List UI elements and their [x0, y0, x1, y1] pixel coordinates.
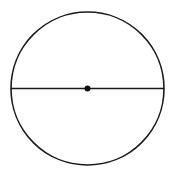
circle-diagram [0, 0, 175, 179]
center-point [85, 86, 91, 92]
